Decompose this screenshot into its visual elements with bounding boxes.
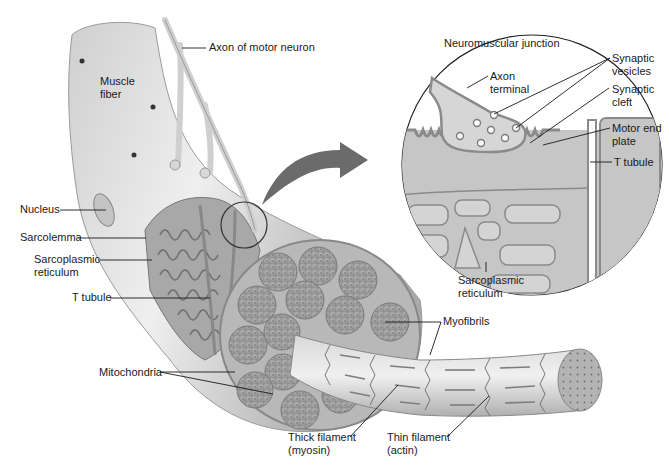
label-mitochondria: Mitochondria xyxy=(99,366,162,379)
label-neuromuscular-junction: Neuromuscular junction xyxy=(444,37,560,50)
nucleus-dot xyxy=(132,153,137,158)
myofibril-cross-section xyxy=(259,253,297,291)
label-t-tubule-right: T tubule xyxy=(614,156,654,169)
myofibril-cross-section xyxy=(237,372,273,408)
label-synaptic-cleft: Synaptic cleft xyxy=(612,83,654,109)
nucleus-dot xyxy=(151,105,156,110)
nucleus-dot xyxy=(80,59,85,64)
axon-terminal-bulb xyxy=(170,160,180,170)
magnify-arrow xyxy=(262,142,368,205)
label-synaptic-vesicles: Synaptic vesicles xyxy=(612,52,654,78)
label-thick-filament: Thick filament (myosin) xyxy=(288,431,356,457)
label-myofibrils: Myofibrils xyxy=(443,315,489,328)
t-tubule-channel xyxy=(588,120,596,300)
label-axon-terminal: Axon terminal xyxy=(490,70,529,96)
label-sarcoplasmic-reticulum: Sarcoplasmic reticulum xyxy=(34,253,100,279)
myofibril-end-cap xyxy=(558,349,602,411)
label-axon-of-motor-neuron: Axon of motor neuron xyxy=(209,41,315,54)
muscle-fiber-diagram: Axon of motor neuron Muscle fiber Nucleu… xyxy=(0,0,669,465)
label-motor-end-plate: Motor end plate xyxy=(612,122,662,148)
myofibril-cross-section xyxy=(299,247,337,285)
label-muscle-fiber: Muscle fiber xyxy=(100,75,135,101)
axon-terminal-bulb xyxy=(200,168,210,178)
myofibril-cross-section xyxy=(281,391,319,429)
label-nucleus: Nucleus xyxy=(20,203,60,216)
leader-myofibrils-2 xyxy=(430,322,441,355)
myofibril-cross-section xyxy=(286,281,324,319)
myofibril-cross-section xyxy=(229,326,267,364)
label-t-tubule-left: T tubule xyxy=(72,291,112,304)
myofibril-cross-section xyxy=(326,296,364,334)
label-sarcolemma: Sarcolemma xyxy=(20,231,82,244)
label-sarcoplasmic-reticulum-inset: Sarcoplasmic reticulum xyxy=(458,274,524,300)
diagram-canvas xyxy=(0,0,669,465)
label-thin-filament: Thin filament (actin) xyxy=(387,431,450,457)
myofibril-cross-section xyxy=(339,261,377,299)
